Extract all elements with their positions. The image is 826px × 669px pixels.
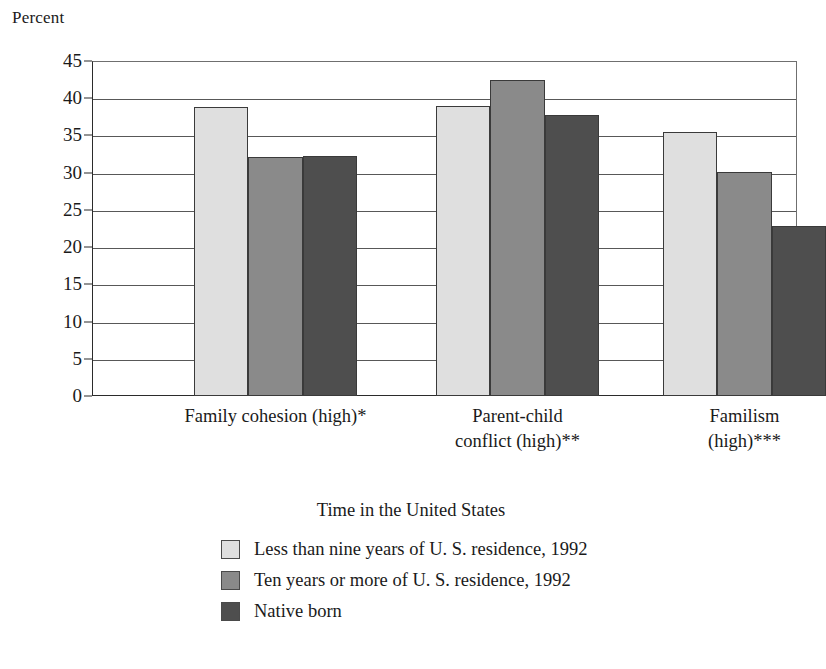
legend: Time in the United States Less than nine… bbox=[0, 500, 816, 627]
gridline bbox=[93, 360, 796, 361]
y-axis-tick-label: 5 bbox=[73, 348, 83, 370]
gridline bbox=[93, 323, 796, 324]
legend-item-label: Native born bbox=[254, 601, 342, 622]
gridline bbox=[93, 174, 796, 175]
gridline bbox=[93, 211, 796, 212]
y-axis-tick-mark bbox=[84, 396, 92, 397]
gridline bbox=[93, 136, 796, 137]
x-axis-category-label: Familism (high)*** bbox=[708, 404, 781, 454]
y-axis-tick-mark bbox=[84, 284, 92, 285]
gridline bbox=[93, 285, 796, 286]
y-axis-tick-label: 15 bbox=[63, 273, 82, 295]
y-axis-tick-mark bbox=[84, 321, 92, 322]
legend-items: Less than nine years of U. S. residence,… bbox=[221, 534, 816, 627]
y-axis-tick-label: 45 bbox=[63, 50, 82, 72]
gridlines bbox=[93, 62, 796, 395]
y-axis-tick-label: 20 bbox=[63, 236, 82, 258]
y-axis-tick-labels: 454035302520151050 bbox=[30, 61, 82, 396]
x-axis-category-label: Parent-child conflict (high)** bbox=[455, 404, 580, 454]
legend-swatch-icon bbox=[221, 602, 240, 621]
y-axis-tick-mark bbox=[84, 172, 92, 173]
gridline bbox=[93, 248, 796, 249]
legend-item-label: Less than nine years of U. S. residence,… bbox=[254, 539, 587, 560]
x-axis-category-label: Family cohesion (high)* bbox=[185, 404, 367, 429]
y-axis-tick-label: 35 bbox=[63, 124, 82, 146]
x-axis-category-labels: Family cohesion (high)*Parent-child conf… bbox=[92, 404, 797, 474]
y-axis-tick-label: 10 bbox=[63, 311, 82, 333]
y-axis-tick-mark bbox=[84, 61, 92, 62]
y-axis-tick-label: 25 bbox=[63, 199, 82, 221]
y-axis-tick-mark bbox=[84, 247, 92, 248]
y-axis-title: Percent bbox=[12, 8, 64, 28]
y-axis-tick-mark bbox=[84, 135, 92, 136]
y-axis-tick-mark bbox=[84, 358, 92, 359]
legend-item: Native born bbox=[221, 596, 816, 627]
legend-item: Ten years or more of U. S. residence, 19… bbox=[221, 565, 816, 596]
legend-title: Time in the United States bbox=[6, 500, 816, 521]
legend-item: Less than nine years of U. S. residence,… bbox=[221, 534, 816, 565]
y-axis-tick-label: 0 bbox=[73, 385, 83, 407]
y-axis-tick-label: 40 bbox=[63, 87, 82, 109]
gridline bbox=[93, 99, 796, 100]
plot-area bbox=[92, 61, 797, 396]
legend-swatch-icon bbox=[221, 571, 240, 590]
legend-swatch-icon bbox=[221, 540, 240, 559]
y-axis-tick-mark bbox=[84, 209, 92, 210]
y-axis-tick-mark bbox=[84, 98, 92, 99]
y-axis-tick-label: 30 bbox=[63, 162, 82, 184]
legend-item-label: Ten years or more of U. S. residence, 19… bbox=[254, 570, 571, 591]
